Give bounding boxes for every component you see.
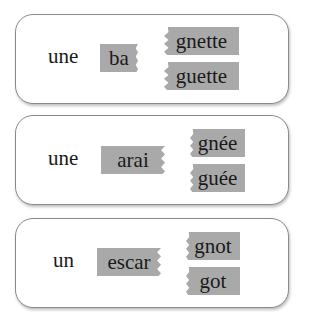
- option-tile[interactable]: gnot: [186, 232, 240, 260]
- article-label: une: [48, 146, 78, 171]
- option-tile[interactable]: gnette: [164, 27, 239, 55]
- article-label: un: [53, 248, 74, 273]
- option-tile[interactable]: guée: [190, 164, 245, 192]
- option-tile[interactable]: got: [186, 267, 240, 295]
- stem-tile[interactable]: arai: [101, 146, 165, 174]
- option-tile[interactable]: guette: [164, 62, 239, 90]
- stem-tile[interactable]: escar: [97, 248, 161, 276]
- article-label: une: [48, 44, 78, 69]
- option-tile[interactable]: gnée: [190, 129, 245, 157]
- stem-tile[interactable]: ba: [100, 44, 138, 72]
